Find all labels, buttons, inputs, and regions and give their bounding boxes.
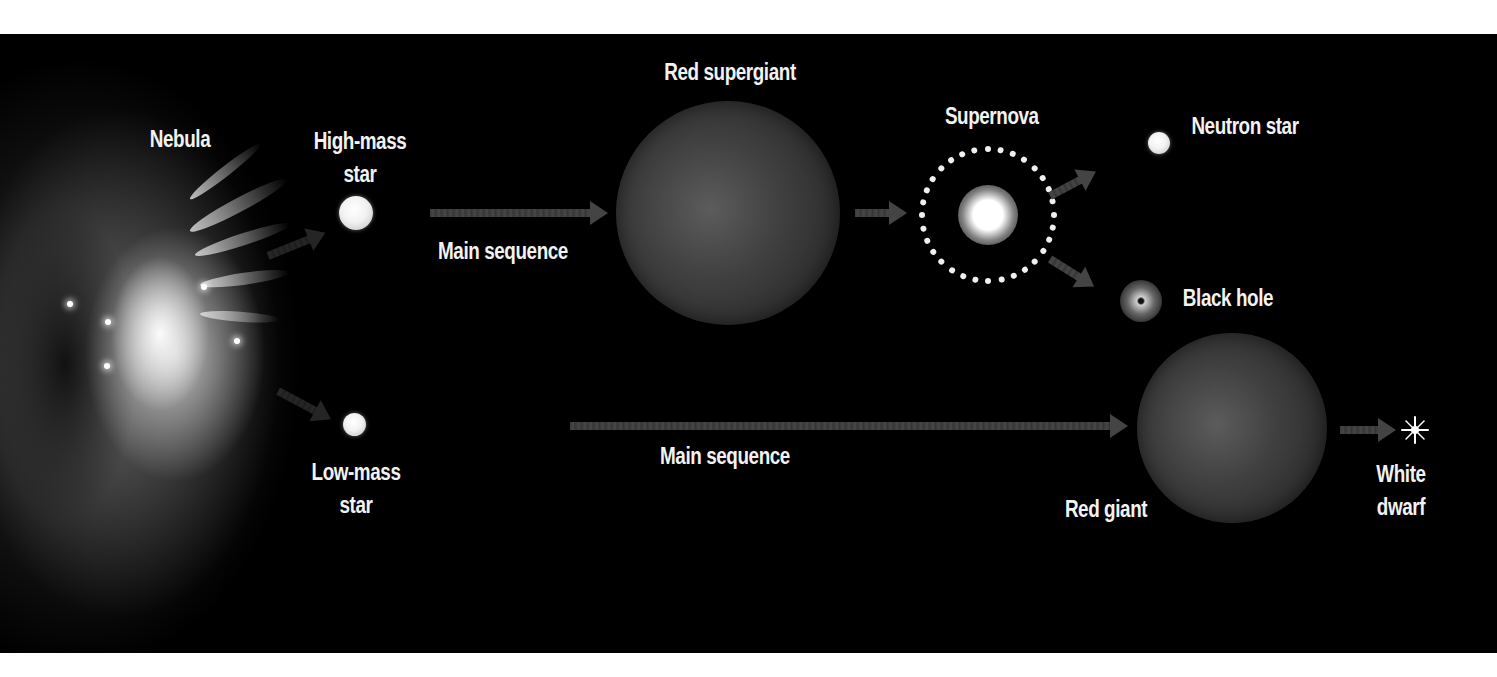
high-mass-star-label: High-mass star bbox=[311, 125, 409, 191]
diagram-panel: Nebula High-mass star Low-mass star Main… bbox=[0, 34, 1497, 653]
arrow-red-giant-to-white-dwarf bbox=[1340, 423, 1396, 437]
supernova-core bbox=[958, 185, 1018, 245]
supernova-label: Supernova bbox=[945, 100, 1035, 133]
low-mass-star bbox=[343, 413, 366, 436]
high-mass-star-label-line2: star bbox=[311, 158, 409, 191]
arrow-main-sequence-high bbox=[430, 206, 608, 220]
white-dwarf-label-line2: dwarf bbox=[1364, 491, 1438, 524]
red-giant bbox=[1137, 333, 1327, 523]
arrow-main-sequence-low bbox=[570, 419, 1128, 433]
main-sequence-high-label: Main sequence bbox=[429, 235, 577, 268]
neutron-star bbox=[1148, 132, 1170, 154]
red-supergiant bbox=[616, 101, 840, 325]
red-supergiant-label: Red supergiant bbox=[648, 56, 812, 89]
high-mass-star-label-line1: High-mass bbox=[311, 125, 409, 158]
white-dwarf-label: White dwarf bbox=[1364, 458, 1438, 524]
neutron-star-label: Neutron star bbox=[1184, 110, 1307, 143]
black-hole bbox=[1120, 280, 1162, 322]
low-mass-star-label: Low-mass star bbox=[307, 456, 405, 522]
white-dwarf-star-icon bbox=[1400, 415, 1430, 445]
high-mass-star bbox=[339, 196, 373, 230]
low-mass-star-label-line2: star bbox=[307, 489, 405, 522]
arrow-supergiant-to-supernova bbox=[855, 206, 907, 220]
black-hole-label: Black hole bbox=[1179, 282, 1277, 315]
red-giant-label: Red giant bbox=[1057, 493, 1155, 526]
nebula-label: Nebula bbox=[139, 123, 221, 156]
main-sequence-low-label: Main sequence bbox=[651, 440, 799, 473]
low-mass-star-label-line1: Low-mass bbox=[307, 456, 405, 489]
supernova bbox=[918, 145, 1058, 285]
white-dwarf-label-line1: White bbox=[1364, 458, 1438, 491]
